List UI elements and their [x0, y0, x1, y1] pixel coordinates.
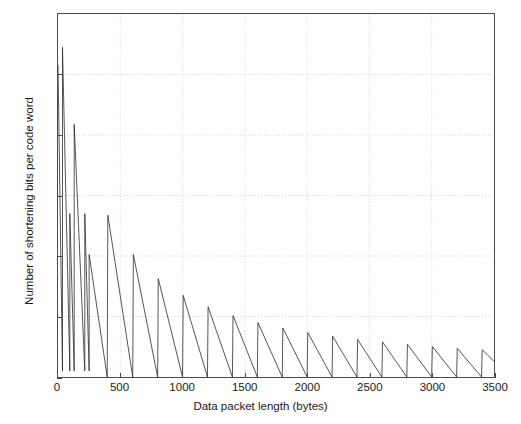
x-tick-mark — [182, 373, 183, 378]
chart-figure: 020040060080010001200 050010001500200025… — [0, 0, 521, 424]
x-tick-label: 3000 — [420, 381, 446, 393]
x-tick-mark — [120, 373, 121, 378]
plot-svg — [58, 14, 494, 377]
x-tick-mark — [370, 373, 371, 378]
x-tick-label: 2000 — [294, 381, 320, 393]
x-tick-label: 3500 — [482, 381, 508, 393]
x-tick-mark — [495, 373, 496, 378]
data-series — [58, 47, 494, 377]
y-tick-mark — [57, 13, 62, 14]
x-tick-label: 0 — [54, 381, 60, 393]
x-axis-label: Data packet length (bytes) — [0, 400, 521, 412]
plot-area — [57, 13, 495, 378]
x-tick-mark — [57, 373, 58, 378]
x-tick-mark — [307, 373, 308, 378]
y-tick-mark — [57, 378, 62, 379]
x-tick-mark — [432, 373, 433, 378]
grid-lines — [58, 14, 494, 377]
x-tick-label: 500 — [110, 381, 129, 393]
y-tick-mark — [57, 196, 62, 197]
y-axis-label: Number of shortening bits per code word — [23, 86, 35, 316]
x-tick-mark — [245, 373, 246, 378]
x-tick-label: 1500 — [232, 381, 258, 393]
y-tick-mark — [57, 74, 62, 75]
series-line — [58, 47, 494, 377]
y-tick-mark — [57, 256, 62, 257]
x-tick-label: 2500 — [357, 381, 383, 393]
x-tick-label: 1000 — [169, 381, 195, 393]
y-tick-mark — [57, 317, 62, 318]
y-tick-mark — [57, 135, 62, 136]
